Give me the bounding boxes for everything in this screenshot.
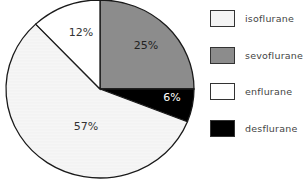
legend-swatch-isoflurane <box>210 10 235 27</box>
legend-item-sevoflurane: sevoflurane <box>210 47 308 64</box>
legend-item-isoflurane: isoflurane <box>210 10 308 27</box>
slice-label-isoflurane: 57% <box>74 120 98 133</box>
slice-label-enflurane: 12% <box>69 26 93 39</box>
slice-label-sevoflurane: 25% <box>134 39 158 52</box>
legend-label: enflurane <box>245 83 292 100</box>
legend-item-desflurane: desflurane <box>210 120 308 137</box>
legend-label: desflurane <box>245 120 297 137</box>
legend-label: sevoflurane <box>245 47 303 64</box>
pie-chart: 25%6%57%12% <box>0 0 205 187</box>
legend-swatch-sevoflurane <box>210 47 235 64</box>
legend-swatch-enflurane <box>210 83 235 100</box>
legend-item-enflurane: enflurane <box>210 83 308 100</box>
legend-swatch-desflurane <box>210 120 235 137</box>
legend-label: isoflurane <box>245 10 294 27</box>
slice-label-desflurane: 6% <box>163 91 180 104</box>
